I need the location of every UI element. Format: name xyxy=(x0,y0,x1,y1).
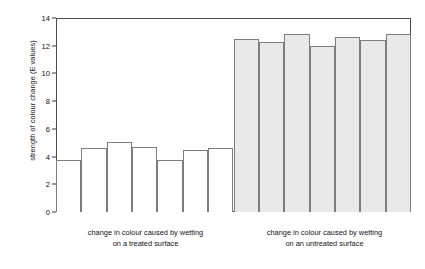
caption-treated-line1: change in colour caused by wetting xyxy=(56,228,235,239)
caption-untreated-line2: on an untreated surface xyxy=(235,239,414,250)
bar-untreated-6 xyxy=(360,40,385,212)
y-tick-label-14: 14 xyxy=(20,14,50,23)
bar-untreated-5 xyxy=(335,37,360,212)
caption-treated-line2: on a treated surface xyxy=(56,239,235,250)
bar-treated-1 xyxy=(56,160,81,212)
bar-chart: strength of colour change (E values) 024… xyxy=(0,0,425,269)
caption-treated: change in colour caused by wetting on a … xyxy=(56,222,235,262)
bar-treated-5 xyxy=(157,160,182,212)
bar-treated-3 xyxy=(107,142,132,212)
y-tick-label-4: 4 xyxy=(20,152,50,161)
group-captions: change in colour caused by wetting on a … xyxy=(56,222,414,262)
bar-untreated-4 xyxy=(310,46,335,212)
y-tick-label-6: 6 xyxy=(20,124,50,133)
bars-container xyxy=(56,18,411,212)
bar-treated-2 xyxy=(81,148,106,212)
caption-untreated: change in colour caused by wetting on an… xyxy=(235,222,414,262)
y-tick-label-0: 0 xyxy=(20,208,50,217)
caption-untreated-line1: change in colour caused by wetting xyxy=(235,228,414,239)
y-tick-label-10: 10 xyxy=(20,69,50,78)
y-tick-label-12: 12 xyxy=(20,41,50,50)
bar-untreated-3 xyxy=(284,34,309,212)
bar-treated-7 xyxy=(208,148,233,212)
bar-untreated-1 xyxy=(234,39,259,212)
y-tick-label-8: 8 xyxy=(20,97,50,106)
bar-untreated-7 xyxy=(386,34,411,212)
bar-untreated-2 xyxy=(259,42,284,212)
bar-treated-4 xyxy=(132,147,157,212)
bar-treated-6 xyxy=(183,150,208,212)
y-tick-label-2: 2 xyxy=(20,180,50,189)
